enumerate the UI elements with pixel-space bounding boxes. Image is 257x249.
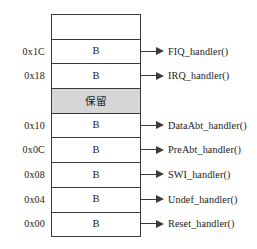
- vector-table-row: B: [52, 114, 140, 139]
- arrow-right-icon: [141, 145, 167, 154]
- handler-slot: [141, 88, 257, 113]
- address-slot: 0x10: [0, 113, 45, 138]
- handler-label: Undef_handler(): [168, 194, 237, 205]
- handler-slot: SWI_handler(): [141, 162, 257, 187]
- branch-instruction-label: B: [92, 145, 99, 156]
- vector-table-row: B: [52, 40, 140, 65]
- vector-table-row: B: [52, 188, 140, 213]
- handler-slot: DataAbt_handler(): [141, 113, 257, 138]
- handler-pointer-row: FIQ_handler(): [141, 39, 228, 64]
- arrow-right-icon: [141, 219, 167, 228]
- vector-table: BB保留BBBBB: [51, 14, 141, 237]
- handler-pointer-row: IRQ_handler(): [141, 63, 229, 88]
- handler-label: DataAbt_handler(): [168, 120, 247, 131]
- handler-label: Reset_handler(): [168, 218, 235, 229]
- vector-table-row-reserved: 保留: [52, 89, 140, 114]
- handler-slot: IRQ_handler(): [141, 63, 257, 88]
- address-label: 0x18: [1, 63, 45, 88]
- branch-instruction-label: B: [92, 71, 99, 82]
- arrow-right-icon: [141, 195, 167, 204]
- arrow-head: [156, 47, 164, 55]
- handler-pointer-row: SWI_handler(): [141, 162, 230, 187]
- branch-instruction-label: B: [92, 219, 99, 230]
- address-slot: [0, 14, 45, 39]
- vector-table-row: B: [52, 138, 140, 163]
- arrow-right-icon: [141, 170, 167, 179]
- vector-table-row: B: [52, 64, 140, 89]
- vector-table-row: B: [52, 213, 140, 238]
- arrow-right-icon: [141, 47, 167, 56]
- handler-label: IRQ_handler(): [168, 70, 229, 81]
- address-label: 0x10: [1, 113, 45, 138]
- exception-vector-table-diagram: 0x1C0x180x100x0C0x080x040x00 BB保留BBBBB F…: [0, 0, 257, 249]
- branch-instruction-label: B: [92, 170, 99, 181]
- address-slot: 0x0C: [0, 137, 45, 162]
- address-slot: 0x00: [0, 212, 45, 237]
- arrow-head: [156, 121, 164, 129]
- handler-slot: FIQ_handler(): [141, 39, 257, 64]
- handler-pointer-row: PreAbt_handler(): [141, 137, 241, 162]
- handler-slot: Reset_handler(): [141, 212, 257, 237]
- vector-table-row: [52, 15, 140, 40]
- handler-slot: PreAbt_handler(): [141, 137, 257, 162]
- handler-label: PreAbt_handler(): [168, 144, 241, 155]
- handler-slot: [141, 14, 257, 39]
- address-slot: 0x18: [0, 63, 45, 88]
- address-slot: 0x08: [0, 162, 45, 187]
- address-label: 0x1C: [1, 39, 45, 64]
- arrow-head: [156, 195, 164, 203]
- address-label: 0x04: [1, 187, 45, 212]
- arrow-head: [156, 170, 164, 178]
- handler-label: FIQ_handler(): [168, 46, 228, 57]
- handler-pointer-row: DataAbt_handler(): [141, 113, 247, 138]
- address-label: 0x00: [1, 212, 45, 237]
- address-label: 0x0C: [1, 137, 45, 162]
- branch-instruction-label: B: [92, 194, 99, 205]
- vector-table-row: B: [52, 163, 140, 188]
- arrow-head: [156, 220, 164, 228]
- arrow-right-icon: [141, 71, 167, 80]
- handler-pointer-row: Undef_handler(): [141, 187, 237, 212]
- address-column: 0x1C0x180x100x0C0x080x040x00: [0, 14, 45, 236]
- branch-instruction-label: B: [92, 120, 99, 131]
- handler-label: SWI_handler(): [168, 169, 230, 180]
- address-slot: [0, 88, 45, 113]
- handler-pointer-row: Reset_handler(): [141, 212, 235, 237]
- address-slot: 0x04: [0, 187, 45, 212]
- arrow-head: [156, 146, 164, 154]
- address-label: 0x08: [1, 162, 45, 187]
- handler-column: FIQ_handler()IRQ_handler()DataAbt_handle…: [141, 14, 257, 236]
- handler-slot: Undef_handler(): [141, 187, 257, 212]
- arrow-right-icon: [141, 121, 167, 130]
- reserved-cell-label: 保留: [85, 96, 107, 107]
- arrow-head: [156, 72, 164, 80]
- branch-instruction-label: B: [92, 46, 99, 57]
- address-slot: 0x1C: [0, 39, 45, 64]
